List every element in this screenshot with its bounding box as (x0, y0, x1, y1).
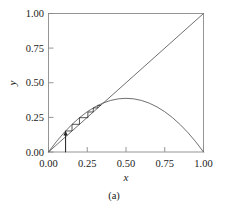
y-tick-label: 0.75 (26, 43, 44, 54)
x-tick-label: 1.00 (194, 158, 212, 169)
y-axis-tick-labels: 0.00 0.25 0.50 0.75 1.00 (26, 8, 44, 158)
x-axis-ticks (49, 147, 204, 152)
x-tick-label: 0.50 (117, 158, 135, 169)
figure-caption: (a) (108, 190, 120, 202)
figure-panel: 0.00 0.25 0.50 0.75 1.00 0.00 0.25 0.50 … (0, 0, 228, 208)
x-axis-title: x (123, 171, 129, 183)
y-axis-title: y (6, 80, 18, 86)
x-tick-label: 0.00 (39, 158, 57, 169)
cobweb-orbit-path (66, 105, 101, 152)
x-tick-label: 0.75 (156, 158, 174, 169)
initial-condition-marker (63, 131, 67, 152)
y-tick-label: 0.00 (26, 147, 44, 158)
x-axis-tick-labels: 0.00 0.25 0.50 0.75 1.00 (39, 158, 212, 169)
x-tick-label: 0.25 (78, 158, 96, 169)
y-tick-label: 0.50 (26, 77, 44, 88)
y-axis-ticks (49, 14, 54, 153)
y-tick-label: 1.00 (26, 8, 44, 19)
y-tick-label: 0.25 (26, 112, 44, 123)
logistic-map-cobweb-chart: 0.00 0.25 0.50 0.75 1.00 0.00 0.25 0.50 … (0, 0, 228, 208)
